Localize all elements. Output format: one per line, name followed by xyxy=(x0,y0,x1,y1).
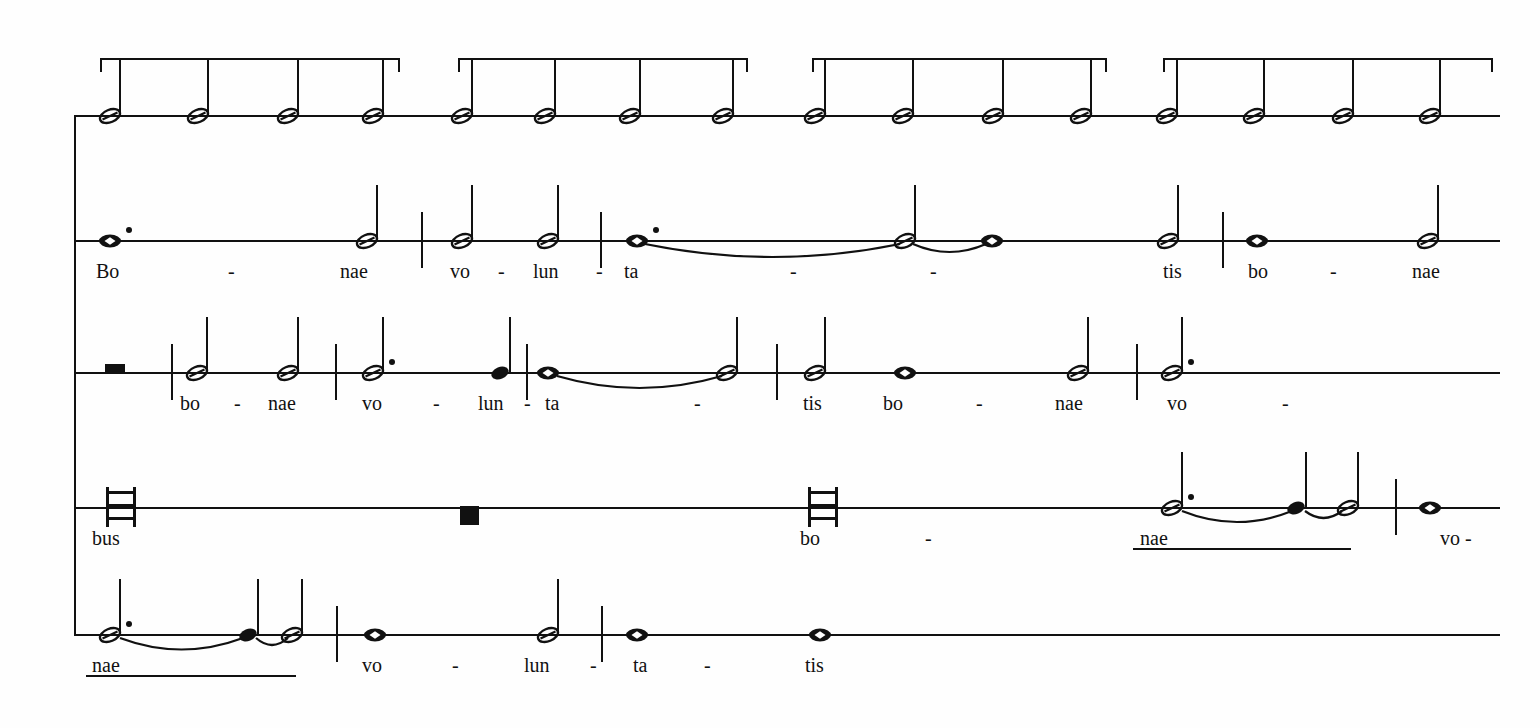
lyric-syllable: tis xyxy=(1163,260,1182,283)
lyric-syllable: bo xyxy=(1248,260,1268,283)
note-stem xyxy=(1181,317,1183,372)
note-stem xyxy=(207,60,209,115)
longa-crossbar xyxy=(106,517,136,520)
notehead-whole xyxy=(362,626,388,644)
lyric-syllable: nae xyxy=(340,260,368,283)
longa-crossbar xyxy=(106,491,136,494)
lyric-syllable: - xyxy=(976,392,983,415)
note-stem xyxy=(471,185,473,240)
notehead-whole xyxy=(97,232,123,250)
notehead-whole xyxy=(624,626,650,644)
lyric-syllable: Bo xyxy=(96,260,119,283)
lyric-syllable: - xyxy=(1330,260,1337,283)
note-stem xyxy=(1181,452,1183,507)
lyric-syllable: bo xyxy=(180,392,200,415)
bracket-left-tick xyxy=(812,58,814,72)
lyric-syllable: nae xyxy=(1140,527,1168,550)
lyric-syllable: - xyxy=(433,392,440,415)
lyric-syllable: - xyxy=(228,260,235,283)
lyric-syllable: - xyxy=(790,260,797,283)
bracket-right-tick xyxy=(1105,58,1107,72)
note-stem xyxy=(1437,185,1439,240)
bracket-top-line xyxy=(100,58,400,60)
augmentation-dot xyxy=(653,227,659,233)
lyric-syllable: - xyxy=(234,392,241,415)
lyric-syllable: vo xyxy=(1167,392,1187,415)
note-stem xyxy=(1087,317,1089,372)
note-stem xyxy=(732,60,734,115)
augmentation-dot xyxy=(126,227,132,233)
bracket-top-line xyxy=(458,58,748,60)
barline xyxy=(335,344,337,400)
note-stem xyxy=(736,317,738,372)
note-stem xyxy=(1305,452,1307,507)
note-stem xyxy=(914,185,916,240)
lyric-syllable: lun xyxy=(533,260,559,283)
bracket-right-tick xyxy=(1491,58,1493,72)
note-stem xyxy=(509,317,511,372)
lyric-syllable: ta xyxy=(633,654,647,677)
lyric-syllable: tis xyxy=(803,392,822,415)
lyric-syllable: - xyxy=(596,260,603,283)
lyric-syllable: - xyxy=(590,654,597,677)
lyric-syllable: nae xyxy=(1055,392,1083,415)
barline xyxy=(336,606,338,662)
tempo-bracket-4 xyxy=(1163,58,1493,74)
note-stem xyxy=(471,60,473,115)
lyric-syllable: vo xyxy=(362,392,382,415)
lyric-syllable: - xyxy=(930,260,937,283)
slur xyxy=(256,636,288,654)
note-stem xyxy=(301,579,303,634)
lyric-syllable: nae xyxy=(268,392,296,415)
slur xyxy=(1182,509,1292,535)
note-stem xyxy=(1352,60,1354,115)
note-stem xyxy=(1002,60,1004,115)
score-page: Bo-naevo-lun-ta--tisbo-naebo-naevo-lun-t… xyxy=(0,0,1540,728)
note-stem xyxy=(119,579,121,634)
note-stem xyxy=(382,317,384,372)
notehead-whole xyxy=(1417,499,1443,517)
note-stem xyxy=(912,60,914,115)
lyric-syllable: ta xyxy=(624,260,638,283)
lyric-syllable: - xyxy=(925,527,932,550)
tempo-bracket-3 xyxy=(812,58,1107,74)
note-stem xyxy=(1177,185,1179,240)
lyric-syllable: ta xyxy=(545,392,559,415)
note-stem xyxy=(1176,60,1178,115)
barline xyxy=(171,344,173,400)
note-stem xyxy=(557,579,559,634)
lyric-syllable: - xyxy=(452,654,459,677)
note-stem xyxy=(206,317,208,372)
lyric-syllable: lun xyxy=(478,392,504,415)
bracket-right-tick xyxy=(746,58,748,72)
longa-crossbar xyxy=(808,491,838,494)
tempo-bracket-1 xyxy=(100,58,400,74)
longa-crossbar xyxy=(808,504,838,507)
augmentation-dot xyxy=(1188,359,1194,365)
note-stem xyxy=(297,317,299,372)
barline xyxy=(421,212,423,268)
rest-semibreve-rest xyxy=(105,364,125,373)
note-stem xyxy=(1357,452,1359,507)
longa-crossbar xyxy=(106,504,136,507)
lyric-syllable: lun xyxy=(524,654,550,677)
system-bracket xyxy=(74,115,76,634)
lyric-syllable: vo xyxy=(450,260,470,283)
note-stem xyxy=(1439,60,1441,115)
note-stem xyxy=(1090,60,1092,115)
notehead-whole xyxy=(892,364,918,382)
barline xyxy=(1395,479,1397,535)
rest-square-rest xyxy=(460,506,479,525)
note-stem xyxy=(824,60,826,115)
slur xyxy=(913,242,986,262)
lyric-syllable: tis xyxy=(805,654,824,677)
note-stem xyxy=(376,185,378,240)
slur xyxy=(645,242,900,272)
lyric-syllable: bo xyxy=(800,527,820,550)
augmentation-dot xyxy=(126,621,132,627)
lyric-syllable: bo xyxy=(883,392,903,415)
note-stem xyxy=(639,60,641,115)
longa-crossbar xyxy=(808,517,838,520)
lyric-syllable: - xyxy=(524,392,531,415)
notehead-whole xyxy=(1244,232,1270,250)
